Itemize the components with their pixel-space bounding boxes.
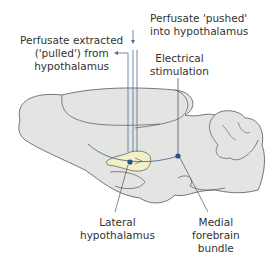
- label-lateral: Lateral hypothalamus: [80, 216, 155, 242]
- lh-dot: [127, 159, 132, 164]
- mfb-dot: [175, 153, 180, 158]
- label-electrical: Electrical stimulation: [150, 52, 209, 78]
- label-medial: Medial forebrain bundle: [192, 216, 240, 255]
- label-pulled: Perfusate extracted ('pulled') from hypo…: [20, 34, 123, 73]
- label-pushed: Perfusate 'pushed' into hypothalamus: [150, 12, 248, 38]
